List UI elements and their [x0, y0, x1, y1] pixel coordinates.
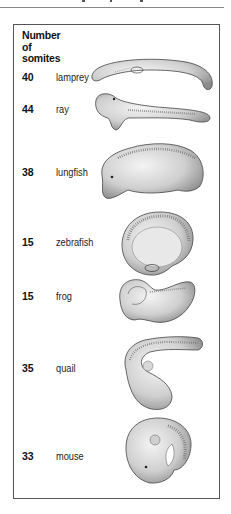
mouse-embryo-icon	[126, 418, 191, 483]
lamprey-embryo-icon	[92, 59, 212, 89]
embryo-illustrations	[0, 0, 231, 514]
lungfish-embryo-icon	[102, 144, 203, 199]
frog-embryo-icon	[120, 280, 195, 323]
ray-embryo-icon	[96, 94, 210, 130]
quail-embryo-icon	[125, 337, 203, 410]
zebrafish-embryo-icon	[122, 212, 193, 275]
